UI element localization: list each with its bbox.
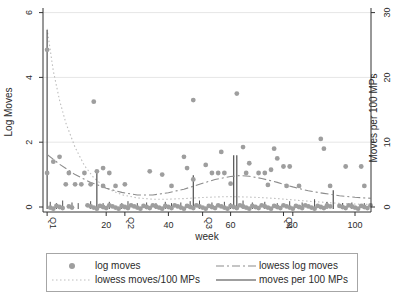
y-axis-right-title: Moves per 100 MPs bbox=[368, 74, 379, 163]
x-axis-title: week bbox=[194, 231, 219, 242]
legend-label-moves-per-100mps: moves per 100 MPs bbox=[259, 274, 351, 285]
y-left-tick-label: 6 bbox=[24, 10, 34, 15]
scatter-point bbox=[107, 171, 112, 176]
legend-symbol-dotted-line bbox=[50, 275, 94, 285]
legend-symbol-solid-line bbox=[214, 275, 258, 285]
scatter-point bbox=[219, 150, 224, 155]
x-quarter-tick-label: Q3 bbox=[204, 217, 214, 229]
lowess-log-line bbox=[47, 155, 371, 199]
scatter-point bbox=[281, 164, 286, 169]
scatter-point bbox=[88, 182, 93, 187]
scatter-point bbox=[234, 91, 239, 96]
scatter-point bbox=[191, 98, 196, 103]
scatter-point bbox=[45, 47, 50, 52]
scatter-point bbox=[203, 162, 208, 167]
y-right-tick-label: 30 bbox=[382, 8, 392, 18]
lowess-moves-line bbox=[47, 29, 371, 205]
plot-area: Log Moves Moves per 100 MPs week 0246010… bbox=[0, 0, 394, 252]
legend-label-lowess-moves-100mps: lowess moves/100 MPs bbox=[95, 274, 213, 285]
scatter-point bbox=[228, 181, 233, 186]
scatter-point bbox=[94, 169, 99, 174]
legend-label-log-moves: log moves bbox=[95, 260, 213, 271]
scatter-point bbox=[191, 177, 196, 182]
scatter-point bbox=[210, 171, 215, 176]
scatter-point bbox=[244, 171, 249, 176]
scatter-point bbox=[362, 184, 367, 189]
scatter-point bbox=[247, 161, 252, 166]
scatter-point bbox=[101, 184, 106, 189]
x-tick-label: 100 bbox=[347, 220, 362, 230]
scatter-point bbox=[343, 164, 348, 169]
y-left-tick-label: 0 bbox=[24, 204, 34, 209]
scatter-point bbox=[169, 184, 174, 189]
scatter-point bbox=[147, 169, 152, 174]
scatter-point bbox=[51, 159, 56, 164]
scatter-point bbox=[82, 171, 87, 176]
x-tick-label: 40 bbox=[163, 220, 173, 230]
y-right-tick-label: 0 bbox=[382, 204, 392, 209]
scatter-point-zero bbox=[70, 205, 75, 210]
legend: log moves lowess log moves lowess moves/… bbox=[46, 253, 358, 292]
scatter-point bbox=[63, 182, 68, 187]
x-quarter-tick-label: Q2 bbox=[126, 217, 136, 229]
scatter-point bbox=[287, 164, 292, 169]
x-tick-label: 20 bbox=[101, 220, 111, 230]
scatter-point bbox=[297, 184, 302, 189]
scatter-point bbox=[359, 164, 364, 169]
scatter-point bbox=[57, 154, 62, 159]
scatter-point bbox=[322, 146, 327, 151]
y-left-tick-label: 2 bbox=[24, 140, 34, 145]
x-quarter-tick-label: Q4 bbox=[284, 217, 294, 229]
scatter-point bbox=[318, 137, 323, 142]
scatter-point bbox=[182, 154, 187, 159]
scatter-point bbox=[275, 156, 280, 161]
y-axis-left-title: Log Moves bbox=[3, 88, 14, 137]
y-right-tick-label: 10 bbox=[382, 137, 392, 147]
scatter-point bbox=[113, 184, 118, 189]
x-tick-label: 60 bbox=[226, 220, 236, 230]
scatter-point bbox=[216, 171, 221, 176]
legend-label-lowess-log-moves: lowess log moves bbox=[259, 260, 351, 271]
scatter-point bbox=[222, 171, 227, 176]
scatter-point bbox=[266, 183, 271, 188]
scatter-point bbox=[160, 172, 165, 177]
scatter-point bbox=[79, 182, 84, 187]
scatter-point bbox=[91, 99, 96, 104]
scatter-point bbox=[241, 145, 246, 150]
scatter-point bbox=[256, 171, 261, 176]
scatter-point bbox=[262, 171, 267, 176]
scatter-point bbox=[284, 184, 289, 189]
y-left-tick-label: 4 bbox=[24, 75, 34, 80]
scatter-point-zero bbox=[60, 206, 65, 211]
y-right-tick-label: 20 bbox=[382, 72, 392, 82]
legend-symbol-dot-marker bbox=[50, 261, 94, 271]
legend-symbol-dashdot-line bbox=[214, 261, 258, 271]
scatter-point bbox=[66, 171, 71, 176]
scatter-point bbox=[101, 166, 106, 171]
scatter-point bbox=[272, 146, 277, 151]
scatter-point bbox=[122, 182, 127, 187]
scatter-point bbox=[269, 167, 274, 172]
scatter-point bbox=[185, 166, 190, 171]
scatter-point bbox=[45, 171, 50, 176]
scatter-point bbox=[328, 184, 333, 189]
scatter-point-zero bbox=[328, 204, 333, 209]
x-quarter-tick-label: Q1 bbox=[48, 217, 58, 229]
scatter-point bbox=[73, 182, 78, 187]
